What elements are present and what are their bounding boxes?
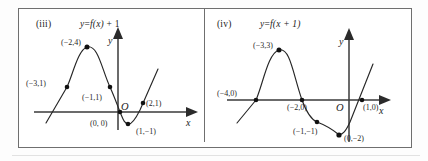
point-marker (254, 98, 259, 103)
y-axis-arrowhead (113, 27, 123, 39)
point-marker (277, 48, 282, 53)
x-axis-label: x (186, 118, 190, 128)
point-marker (108, 85, 113, 90)
page-baseline (12, 155, 420, 156)
point-label-2-1: (2,1) (146, 100, 161, 108)
x-axis-arrowhead (379, 95, 391, 105)
y-axis-label: y (108, 36, 112, 46)
figure-container: (iii) y=f(x) + 1 (−2,4) (−3,1) (−1,1) (0… (0, 0, 428, 161)
point-marker (141, 101, 146, 106)
point-label-minus2-4: (−2,4) (61, 39, 81, 47)
point-marker (360, 98, 365, 103)
point-marker (315, 120, 320, 125)
point-label-0-0: (0, 0) (90, 120, 107, 128)
point-marker (126, 122, 131, 127)
transformed-curve (237, 50, 373, 135)
point-label-minus2-0: (−2,0) (287, 104, 307, 112)
x-axis-arrowhead (186, 107, 198, 117)
point-label-0-minus2: (0,−2) (344, 135, 364, 143)
point-label-minus4-0: (−4,0) (217, 90, 237, 98)
point-marker (300, 98, 305, 103)
origin-label: O (121, 102, 129, 113)
x-axis-label: x (379, 106, 383, 116)
point-label-minus1-minus1: (−1,−1) (293, 128, 317, 136)
point-label-minus3-3: (−3,3) (253, 42, 273, 50)
point-label-minus3-1: (−3,1) (26, 80, 46, 88)
point-marker (85, 45, 90, 50)
point-marker (336, 132, 341, 137)
panel-iv: (iv) y=f(x + 1) (−3,3) (−4,0) (−2,0) (−1… (205, 8, 412, 148)
y-axis-label: y (339, 37, 343, 47)
point-label-1-0: (1,0) (363, 104, 378, 112)
point-label-1-minus1: (1,−1) (136, 128, 156, 136)
point-label-minus1-1: (−1,1) (82, 94, 102, 102)
y-axis-arrowhead (344, 28, 354, 40)
panel-iii-plot (18, 8, 205, 148)
panel-iii: (iii) y=f(x) + 1 (−2,4) (−3,1) (−1,1) (0… (18, 8, 205, 148)
origin-label: O (336, 103, 344, 114)
point-marker (65, 85, 70, 90)
